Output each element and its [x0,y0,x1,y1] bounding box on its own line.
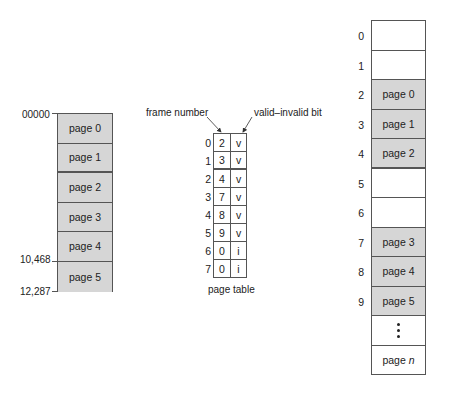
frame-2: page 0 [372,80,425,110]
pt-index-2: 2 [199,173,211,185]
frame-number-arrow-icon [207,117,221,132]
frame-3: page 1 [372,110,425,140]
pt-index-5: 5 [199,227,211,239]
frame-index-2: 2 [352,89,364,101]
pt-row-2: 4v [214,170,246,188]
pt-row-1: 3v [214,152,246,170]
frame-n-prefix: page [382,354,408,366]
frame-index-5: 5 [352,178,364,190]
frame-9: page 5 [372,287,425,317]
pt-index-0: 0 [199,137,211,149]
ellipsis-dot-icon [397,329,400,332]
frame-7: page 3 [372,228,425,258]
pt-row-0: 2v [214,134,246,152]
page-table-caption: page table [208,285,255,295]
pt-bit-1: v [231,152,246,168]
pt-index-6: 6 [199,245,211,257]
frame-8: page 4 [372,257,425,287]
pt-frame-1: 3 [214,152,231,168]
pt-bit-2: v [231,170,246,187]
frame-index-8: 8 [352,266,364,278]
pt-bit-3: v [231,188,246,205]
pt-bit-7: i [231,260,246,278]
frame-index-1: 1 [352,60,364,72]
pt-index-3: 3 [199,191,211,203]
frame-n: page n [372,346,425,376]
pt-index-4: 4 [199,209,211,221]
pt-frame-7: 0 [214,260,231,278]
pt-bit-0: v [231,134,246,151]
frame-n-italic: n [409,354,415,366]
frame-0 [372,21,425,51]
pt-bit-4: v [231,206,246,223]
frame-1 [372,51,425,81]
pt-row-3: 7v [214,188,246,206]
pt-frame-2: 4 [214,170,231,187]
pt-frame-4: 8 [214,206,231,223]
pt-row-5: 9v [214,224,246,242]
pt-row-7: 0i [214,260,246,278]
pt-frame-3: 7 [214,188,231,205]
ellipsis-dot-icon [397,323,400,326]
pt-row-4: 8v [214,206,246,224]
frame-index-4: 4 [352,148,364,160]
frame-ellipsis [372,316,425,346]
frame-5 [372,169,425,199]
pt-bit-5: v [231,224,246,241]
physical-memory: page 0 page 1 page 2 page 3 page 4 page … [371,20,426,375]
frame-index-7: 7 [352,237,364,249]
valid-bit-arrow-icon [243,117,252,132]
ellipsis-dot-icon [397,335,400,338]
pt-row-6: 0i [214,242,246,260]
pt-index-7: 7 [199,263,211,275]
frame-index-9: 9 [352,296,364,308]
frame-index-0: 0 [352,30,364,42]
pt-frame-6: 0 [214,242,231,259]
frame-index-3: 3 [352,119,364,131]
pt-frame-0: 2 [214,134,231,151]
pt-frame-5: 9 [214,224,231,241]
pt-index-1: 1 [199,155,211,167]
frame-index-6: 6 [352,207,364,219]
pt-bit-6: i [231,242,246,259]
frame-4: page 2 [372,139,425,169]
frame-6 [372,198,425,228]
page-table: 2v 3v 4v 7v 8v 9v 0i 0i [213,133,247,278]
